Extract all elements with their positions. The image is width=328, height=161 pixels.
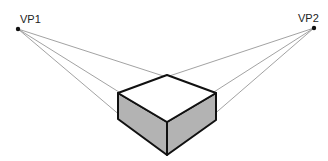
vp1-point — [16, 27, 20, 31]
perspective-diagram: VP1 VP2 — [0, 0, 328, 161]
vp2-label: VP2 — [298, 12, 319, 24]
box — [118, 75, 216, 155]
vp1-label: VP1 — [20, 13, 41, 25]
vp2-point — [312, 26, 316, 30]
